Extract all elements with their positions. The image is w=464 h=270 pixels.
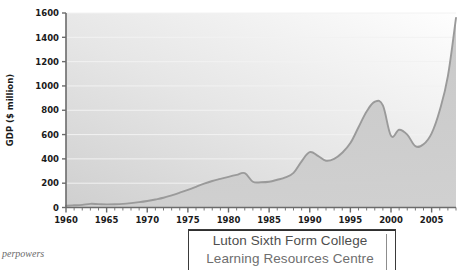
x-tick-label: 2005 <box>420 215 444 225</box>
library-stamp: Luton Sixth Form College Learning Resour… <box>188 229 396 270</box>
y-tick-label: 200 <box>41 178 59 188</box>
x-axis-ticks: 1960196519701975198019851990199520002005 <box>54 208 456 225</box>
stamp-line-1: Luton Sixth Form College <box>195 232 385 250</box>
x-tick-label: 1985 <box>257 215 281 225</box>
caption-fragment: perpowers <box>2 248 44 259</box>
x-tick-label: 1995 <box>339 215 363 225</box>
y-axis-label: GDP ($ million) <box>5 74 15 146</box>
stamp-vertical-bar <box>386 234 387 270</box>
y-tick-label: 1400 <box>35 33 59 43</box>
x-tick-label: 1990 <box>298 215 322 225</box>
x-tick-label: 1980 <box>217 215 241 225</box>
y-tick-label: 800 <box>41 105 59 115</box>
y-tick-label: 400 <box>41 154 59 164</box>
y-tick-label: 0 <box>53 203 59 213</box>
y-axis-ticks: 02004006008001000120014001600 <box>35 8 66 213</box>
y-tick-label: 1200 <box>35 57 59 67</box>
y-tick-label: 1600 <box>35 8 59 18</box>
x-tick-label: 1970 <box>135 215 159 225</box>
x-tick-label: 1965 <box>95 215 119 225</box>
x-tick-label: 2000 <box>379 215 403 225</box>
stamp-top-rule <box>189 230 395 231</box>
stamp-line-2: Learning Resources Centre <box>195 250 385 268</box>
y-tick-label: 600 <box>41 130 59 140</box>
y-tick-label: 1000 <box>35 81 59 91</box>
x-tick-label: 1960 <box>54 215 78 225</box>
x-tick-label: 1975 <box>176 215 200 225</box>
gdp-area-chart-figure: 02004006008001000120014001600 1960196519… <box>0 0 464 270</box>
